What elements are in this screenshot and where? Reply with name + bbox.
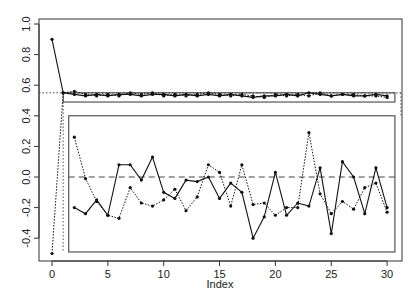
data-point	[263, 201, 266, 204]
data-point	[84, 177, 87, 180]
data-point	[307, 91, 310, 94]
data-point	[274, 93, 277, 96]
data-point	[140, 201, 143, 204]
data-point	[229, 204, 232, 207]
x-tick-label: 0	[49, 268, 55, 280]
data-point	[218, 171, 221, 174]
data-point	[341, 93, 344, 96]
data-point	[106, 214, 109, 217]
data-point	[307, 204, 310, 207]
data-point	[240, 191, 243, 194]
data-point	[207, 91, 210, 94]
data-point	[330, 212, 333, 215]
data-point	[129, 163, 132, 166]
data-point	[374, 182, 377, 185]
x-tick-label: 10	[158, 268, 170, 280]
data-point	[173, 188, 176, 191]
chart-background	[0, 0, 418, 302]
data-point	[330, 232, 333, 235]
data-point	[84, 212, 87, 215]
chart: -0.4-0.20.00.20.40.60.81.0 051015202530 …	[0, 0, 418, 302]
data-point	[117, 217, 120, 220]
data-point	[73, 93, 76, 96]
data-point	[162, 191, 165, 194]
data-point	[207, 163, 210, 166]
data-point	[207, 175, 210, 178]
data-point	[62, 91, 65, 94]
y-tick-label: -0.2	[20, 198, 32, 217]
x-tick-label: 30	[381, 268, 393, 280]
data-point	[196, 195, 199, 198]
data-point	[106, 93, 109, 96]
data-point	[73, 90, 76, 93]
data-point	[151, 91, 154, 94]
data-point	[318, 166, 321, 169]
data-point	[151, 156, 154, 159]
data-point	[240, 93, 243, 96]
data-point	[240, 163, 243, 166]
data-point	[285, 206, 288, 209]
data-point	[151, 204, 154, 207]
y-tick-label: 0.4	[20, 108, 32, 123]
data-point	[274, 171, 277, 174]
x-tick-label: 25	[325, 268, 337, 280]
data-point	[363, 186, 366, 189]
data-point	[363, 212, 366, 215]
data-point	[330, 94, 333, 97]
data-point	[318, 91, 321, 94]
data-point	[251, 94, 254, 97]
data-point	[285, 214, 288, 217]
data-point	[196, 180, 199, 183]
y-tick-label: 0.2	[20, 139, 32, 154]
y-tick-label: 0.0	[20, 169, 32, 184]
data-point	[296, 206, 299, 209]
data-point	[218, 93, 221, 96]
data-point	[218, 197, 221, 200]
data-point	[374, 94, 377, 97]
x-tick-label: 5	[105, 268, 111, 280]
x-tick-label: 20	[269, 268, 281, 280]
data-point	[251, 237, 254, 240]
data-point	[196, 93, 199, 96]
data-point	[95, 200, 98, 203]
data-point	[140, 93, 143, 96]
data-point	[173, 197, 176, 200]
data-point	[140, 178, 143, 181]
data-point	[374, 166, 377, 169]
data-point	[95, 94, 98, 97]
data-point	[229, 94, 232, 97]
y-tick-label: 0.8	[20, 47, 32, 62]
data-point	[285, 94, 288, 97]
data-point	[251, 203, 254, 206]
x-axis-title: Index	[207, 278, 234, 290]
data-point	[129, 186, 132, 189]
data-point	[307, 131, 310, 134]
data-point	[318, 192, 321, 195]
data-point	[173, 93, 176, 96]
data-point	[341, 200, 344, 203]
data-point	[296, 93, 299, 96]
data-point	[73, 206, 76, 209]
data-point	[386, 211, 389, 214]
data-point	[341, 160, 344, 163]
data-point	[162, 198, 165, 201]
data-point	[386, 96, 389, 99]
data-point	[117, 94, 120, 97]
data-point	[50, 38, 53, 41]
data-point	[162, 94, 165, 97]
data-point	[117, 163, 120, 166]
data-point	[84, 93, 87, 96]
y-tick-label: -0.4	[20, 229, 32, 248]
data-point	[363, 94, 366, 97]
data-point	[352, 175, 355, 178]
y-tick-label: 1.0	[20, 16, 32, 31]
data-point	[184, 209, 187, 212]
y-tick-label: 0.6	[20, 78, 32, 93]
data-point	[274, 214, 277, 217]
data-point	[307, 94, 310, 97]
data-point	[229, 182, 232, 185]
data-point	[263, 96, 266, 99]
data-point	[50, 252, 53, 255]
data-point	[73, 136, 76, 139]
data-point	[129, 91, 132, 94]
